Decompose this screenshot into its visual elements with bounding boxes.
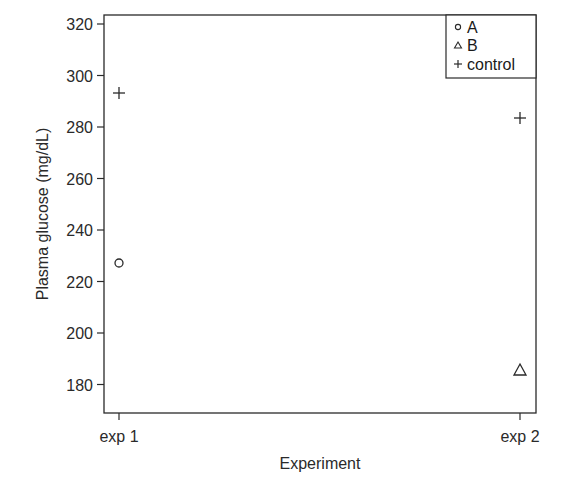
legend: A B control xyxy=(446,15,536,78)
circle-marker xyxy=(115,259,123,267)
y-tick-labels: 320 300 280 260 240 220 200 180 xyxy=(66,16,93,394)
plus-marker xyxy=(113,87,125,99)
legend-label: A xyxy=(467,19,478,36)
y-tick-label: 260 xyxy=(66,171,93,188)
y-tick-label: 180 xyxy=(66,377,93,394)
y-tick-label: 280 xyxy=(66,119,93,136)
legend-label: B xyxy=(467,37,478,54)
triangle-marker xyxy=(514,364,526,375)
y-axis xyxy=(97,24,104,385)
scatter-chart: 320 300 280 260 240 220 200 180 exp 1 ex… xyxy=(0,0,565,489)
data-points xyxy=(113,87,526,375)
plus-marker xyxy=(514,112,526,124)
x-tick-label: exp 1 xyxy=(99,428,138,445)
y-tick-label: 220 xyxy=(66,274,93,291)
legend-label: control xyxy=(467,56,515,73)
x-tick-label: exp 2 xyxy=(500,428,539,445)
y-tick-label: 240 xyxy=(66,222,93,239)
x-axis xyxy=(119,413,520,420)
y-tick-label: 320 xyxy=(66,16,93,33)
y-axis-title: Plasma glucose (mg/dL) xyxy=(34,128,51,301)
y-tick-label: 200 xyxy=(66,325,93,342)
x-axis-title: Experiment xyxy=(280,455,361,472)
y-tick-label: 300 xyxy=(66,68,93,85)
